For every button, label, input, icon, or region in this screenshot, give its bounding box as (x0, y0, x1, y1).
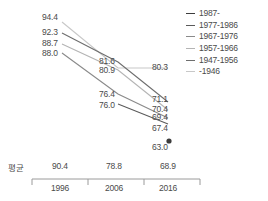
average-value-2006: 78.8 (106, 161, 122, 171)
x-tick-label-1996: 1996 (51, 183, 69, 193)
legend-item-1977-1986[interactable]: 1977-1986 (186, 20, 268, 32)
legend-label-1987: 1987- (199, 9, 220, 18)
plot-area: 94.4 92.3 88.7 88.0 81.6 80.9 76.4 76.0 … (0, 0, 190, 160)
legend-line-icon (186, 48, 195, 49)
average-row: 평균 90.4 78.8 68.9 (0, 158, 205, 176)
x-tick-label-2016: 2016 (159, 183, 177, 193)
average-value-2016: 68.9 (160, 161, 176, 171)
value-label-1996-1947-1956: 92.3 (42, 28, 58, 37)
legend-line-icon (186, 71, 195, 72)
value-label-1996-1967-1976: 88.0 (42, 49, 58, 58)
value-label-1996-1946: 94.4 (42, 13, 58, 22)
legend-line-icon (186, 60, 195, 61)
legend-label-1977-1986: 1977-1986 (199, 21, 238, 30)
legend-line-icon (186, 36, 195, 37)
legend-item-1957-1966[interactable]: 1957-1966 (186, 43, 268, 55)
value-label-2016-1946: 80.3 (152, 63, 168, 72)
value-label-2006-1967-1976: 76.4 (99, 90, 115, 99)
value-label-2016-1977-1986: 67.4 (152, 124, 168, 133)
legend-label-1947-1956: 1947-1956 (199, 56, 238, 65)
value-label-2016-1967-1976: 69.4 (152, 113, 168, 122)
average-row-label: 평균 (8, 161, 24, 173)
value-label-1996-1957-1966: 88.7 (42, 39, 58, 48)
legend-label-1967-1976: 1967-1976 (199, 32, 238, 41)
legend-label-1957-1966: 1957-1966 (199, 44, 238, 53)
legend-line-icon (186, 25, 195, 26)
plot-lines (0, 0, 190, 160)
value-label-2016-1947-1956: 71.1 (152, 95, 168, 104)
value-label-2016-1987: 63.0 (152, 143, 168, 152)
average-value-1996: 90.4 (52, 161, 68, 171)
legend-item-1947-1956[interactable]: 1947-1956 (186, 54, 268, 66)
legend-item-1987[interactable]: 1987- (186, 8, 268, 20)
value-label-2006-1957-1966: 80.9 (99, 66, 115, 75)
legend-item-1946[interactable]: -1946 (186, 66, 268, 78)
legend: 1987- 1977-1986 1967-1976 1957-1966 1947… (186, 8, 268, 78)
value-label-2006-1977-1986: 76.0 (99, 101, 115, 110)
chart-root: 94.4 92.3 88.7 88.0 81.6 80.9 76.4 76.0 … (0, 0, 268, 201)
x-axis: 1996 2006 2016 (0, 175, 205, 201)
x-tick-label-2006: 2006 (105, 183, 123, 193)
legend-item-1967-1976[interactable]: 1967-1976 (186, 31, 268, 43)
legend-label-1946: -1946 (199, 67, 220, 76)
legend-line-icon (186, 13, 195, 14)
